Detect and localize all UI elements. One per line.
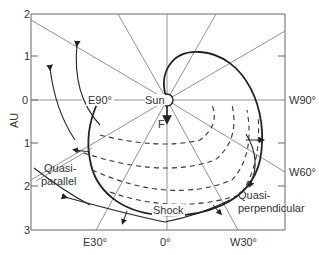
tick-label: 2 [24,180,30,192]
w30-label: W30° [230,236,257,248]
quasi-perpendicular-label-1: Quasi- [238,189,270,201]
field-lines [34,44,255,222]
sun-label: Sun [145,94,165,106]
quasi-perpendicular-label-2: perpendicular [238,202,305,214]
e30-label: E30° [83,236,107,248]
shock-label: Shock [152,204,185,216]
tick-label: 1 [24,50,30,62]
zero-label: 0° [160,236,171,248]
tick-label: 1 [24,137,30,149]
tick-label: 0 [22,94,28,106]
tick-label: 2 [24,8,30,20]
y-axis-label: AU [8,113,20,128]
w60-label: W60° [289,166,316,178]
quasi-parallel-label-1: Quasi- [44,162,76,174]
flare-label: F [158,118,165,130]
quasi-parallel-label-2: parallel [41,175,76,187]
shock-front [88,52,262,216]
e90-label: E90° [86,94,114,106]
tick-label: 3 [24,224,30,236]
w90-label: W90° [289,94,316,106]
